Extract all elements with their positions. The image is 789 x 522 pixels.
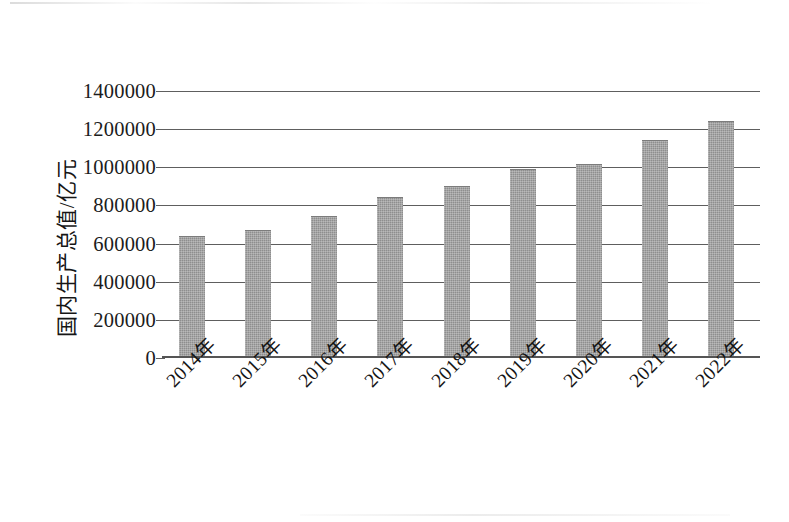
y-axis-tick-label: 800000 (93, 194, 156, 217)
bar (642, 140, 668, 358)
scan-artifact-bottom (300, 514, 730, 516)
y-axis-tick-mark (156, 320, 165, 321)
y-axis-tick-label: 400000 (93, 270, 156, 293)
y-axis-tick-label: 600000 (93, 232, 156, 255)
y-axis-tick-mark (156, 244, 165, 245)
y-axis-tick-label: 1400000 (83, 80, 156, 103)
y-axis-tick-mark (156, 91, 165, 92)
y-axis-tick-mark (156, 167, 165, 168)
scan-artifact-top (10, 2, 710, 4)
bar-series (165, 91, 760, 358)
plot-area (165, 91, 760, 358)
y-axis-tick-label: 1000000 (83, 156, 156, 179)
y-axis-tick-label: 200000 (93, 308, 156, 331)
y-axis-tick-labels: 0200000400000600000800000100000012000001… (28, 91, 156, 358)
y-axis-tick-mark (156, 205, 165, 206)
x-axis-tick-labels: 2014年2015年2016年2017年2018年2019年2020年2021年… (0, 358, 789, 478)
y-axis-tick-label: 1200000 (83, 118, 156, 141)
y-axis-tick-mark (156, 282, 165, 283)
bar (708, 121, 734, 358)
y-axis-tick-mark (156, 129, 165, 130)
chart-page: 国内生产总值/亿元 020000040000060000080000010000… (0, 0, 789, 522)
